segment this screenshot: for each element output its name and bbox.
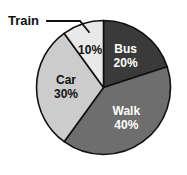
train-callout-label: Train xyxy=(8,13,39,28)
pie-slice-value-train: 10% xyxy=(78,43,102,57)
pie-slice-value-bus: 20% xyxy=(114,56,138,70)
pie-chart: Train Bus20%Walk40%Car30%10% xyxy=(0,0,187,175)
pie-slice-value-car: 30% xyxy=(54,87,78,101)
pie-slice-value-walk: 40% xyxy=(114,118,138,132)
pie-slice-name-car: Car xyxy=(56,73,76,87)
pie-slice-name-walk: Walk xyxy=(113,104,141,118)
pie-slice-name-bus: Bus xyxy=(114,42,137,56)
pie-chart-canvas: Train Bus20%Walk40%Car30%10% xyxy=(0,0,187,175)
